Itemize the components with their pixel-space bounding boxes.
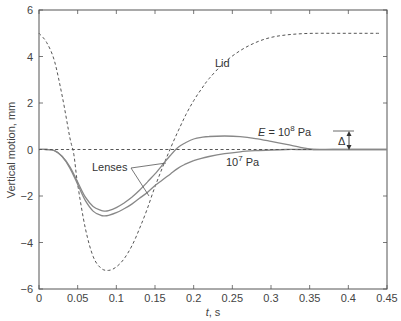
- e8-eq: = 10: [265, 126, 290, 138]
- y-tick-label: −4: [20, 237, 33, 249]
- lenses-label: Lenses: [92, 161, 128, 173]
- e7-unit: Pa: [243, 156, 260, 168]
- y-tick-label: −2: [20, 190, 33, 202]
- delta-label: Δ: [338, 135, 346, 147]
- x-tick-label: 0.15: [144, 292, 165, 304]
- chart: 00.050.10.150.20.250.30.350.40.45 6420−2…: [0, 0, 401, 321]
- x-tick-label: 0.05: [67, 292, 88, 304]
- y-tick-label: −6: [20, 283, 33, 295]
- series-lid: [39, 33, 379, 270]
- y-tick-label: 0: [27, 144, 33, 156]
- series-group: [39, 33, 387, 270]
- x-tick-label: 0.45: [376, 292, 397, 304]
- e7-label: 107 Pa: [226, 154, 260, 168]
- x-tick-label: 0.4: [341, 292, 356, 304]
- lid-label: Lid: [215, 57, 230, 69]
- x-tick-label: 0.2: [186, 292, 201, 304]
- e8-unit: Pa: [295, 126, 312, 138]
- y-tick-label: 6: [27, 4, 33, 16]
- x-tick-label: 0.25: [222, 292, 243, 304]
- y-tick-label: 4: [27, 51, 33, 63]
- lenses-leader-2: [131, 168, 149, 196]
- y-tick-labels: 6420−2−4−6: [20, 4, 33, 295]
- delta-arrow-up-icon: [347, 131, 352, 136]
- x-axis-unit: , s: [209, 306, 221, 318]
- series-lens-e-10-7-pa: [39, 149, 387, 215]
- x-axis-title: t, s: [206, 306, 221, 318]
- e8-label: E = 108 Pa: [258, 124, 312, 138]
- x-tick-label: 0.35: [299, 292, 320, 304]
- lenses-label-text: Lenses: [92, 161, 128, 173]
- y-axis-title: Vertical motion, mm: [5, 102, 17, 199]
- x-tick-label: 0.3: [263, 292, 278, 304]
- x-tick-labels: 00.050.10.150.20.250.30.350.40.45: [36, 292, 398, 304]
- x-tick-label: 0.1: [109, 292, 124, 304]
- y-tick-label: 2: [27, 97, 33, 109]
- series-lens-e-10-8-pa: [39, 136, 387, 211]
- x-tick-label: 0: [36, 292, 42, 304]
- e7-base: 10: [226, 156, 238, 168]
